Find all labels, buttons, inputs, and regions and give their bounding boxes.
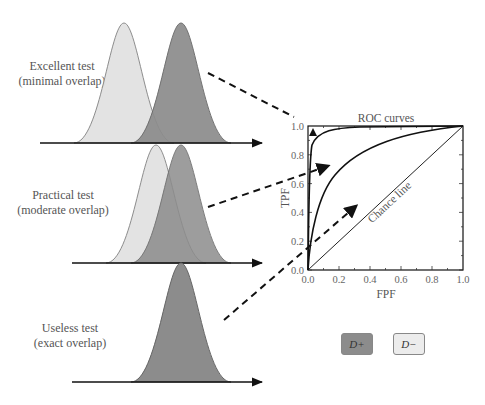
y-tick-label: 0.2 bbox=[291, 236, 304, 247]
y-tick-label: 0.4 bbox=[291, 207, 305, 218]
distribution-useless bbox=[72, 263, 262, 382]
distribution-excellent bbox=[40, 23, 262, 143]
x-tick-label: 0.4 bbox=[363, 274, 377, 285]
x-axis-title: FPF bbox=[376, 288, 395, 300]
roc-chart: 0.0 0.2 0.4 0.6 0.8 1.0 0.0 0.2 0.4 0.6 … bbox=[279, 112, 470, 300]
chance-line-label: Chance line bbox=[365, 179, 413, 225]
y-axis-title: TPF bbox=[279, 188, 291, 208]
x-tick-label: 0.6 bbox=[394, 274, 407, 285]
connector-excellent bbox=[208, 73, 294, 117]
x-tick-label: 0.8 bbox=[425, 274, 438, 285]
y-tick-label: 0.6 bbox=[291, 179, 304, 190]
y-tick-label: 1.0 bbox=[291, 121, 304, 132]
legend-non-diseased-label: D− bbox=[401, 338, 416, 350]
legend-diseased-label: D+ bbox=[349, 338, 364, 350]
excellent-marker-icon bbox=[309, 128, 317, 136]
legend-diseased: D+ bbox=[341, 333, 373, 355]
legend-non-diseased: D− bbox=[393, 333, 425, 355]
distribution-practical bbox=[72, 145, 262, 263]
overlapped-curve bbox=[131, 263, 231, 382]
y-tick-label: 0.8 bbox=[291, 150, 304, 161]
x-tick-label: 1.0 bbox=[456, 274, 469, 285]
roc-title: ROC curves bbox=[358, 112, 415, 124]
x-tick-label: 0.2 bbox=[332, 274, 345, 285]
x-tick-label: 0.0 bbox=[301, 274, 314, 285]
